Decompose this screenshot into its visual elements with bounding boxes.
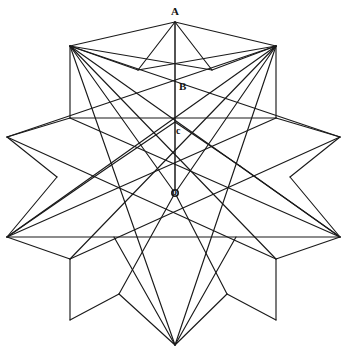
figure-root: A B c o (0, 0, 349, 356)
label-point-a: A (171, 6, 179, 17)
outer-star-edges (7, 22, 340, 345)
label-point-c: c (176, 126, 180, 136)
stellation-chords (7, 22, 340, 345)
inner-construction-lines (7, 122, 340, 294)
label-point-o: o (172, 187, 177, 197)
label-point-b: B (179, 81, 186, 92)
geometric-figure-svg (0, 0, 349, 356)
